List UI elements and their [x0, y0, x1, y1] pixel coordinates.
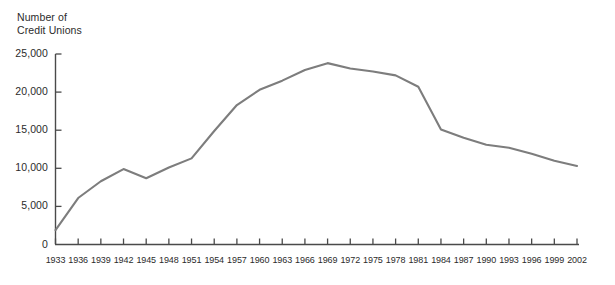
y-axis-ticks [56, 54, 62, 206]
y-axis-tick-label: 10,000 [6, 161, 48, 173]
data-series-line [56, 63, 578, 230]
x-axis-ticks [56, 239, 578, 245]
x-axis-tick-label: 2002 [564, 255, 590, 265]
chart-plot-area [0, 0, 615, 285]
y-axis-tick-label: 0 [6, 238, 48, 250]
y-axis-tick-label: 5,000 [6, 199, 48, 211]
y-axis-tick-label: 25,000 [6, 47, 48, 59]
credit-unions-line-chart: Number of Credit Unions 25,00020,00015,0… [0, 0, 615, 285]
y-axis-tick-label: 15,000 [6, 123, 48, 135]
axis-lines [55, 54, 579, 245]
y-axis-tick-label: 20,000 [6, 85, 48, 97]
